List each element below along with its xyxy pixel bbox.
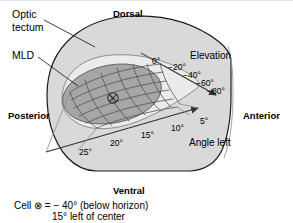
angle-tick-20: 20° [110,139,123,149]
label-optic-tectum-line1: Optic [12,9,37,21]
elevation-tick-minus80: −80° [207,87,225,97]
label-mld: MLD [12,50,34,62]
axis-label-elevation: Elevation [190,50,231,61]
angle-tick-5: 5° [200,117,208,127]
caption-prefix: Cell [14,200,34,211]
label-optic-tectum-line2: tectum [12,22,44,34]
elevation-tick-0: 0° [152,57,160,67]
label-ventral: Ventral [113,186,145,197]
angle-tick-10: 10° [171,124,184,134]
caption-cell-symbol: ⊗ [34,200,42,211]
angle-tick-25: 25° [79,148,92,158]
figure-container: Optic tectum MLD Dorsal Ventral Anterior… [0,0,293,223]
label-dorsal: Dorsal [113,9,143,20]
label-posterior: Posterior [8,111,50,122]
angle-tick-15: 15° [141,131,154,141]
caption-line-1: Cell ⊗ = − 40° (below horizon) [14,200,148,211]
caption-line-2: 15° left of center [52,211,125,222]
axis-label-angle-left: Angle left [189,137,231,148]
label-anterior: Anterior [243,111,280,122]
caption-suffix: = − 40° (below horizon) [42,200,148,211]
